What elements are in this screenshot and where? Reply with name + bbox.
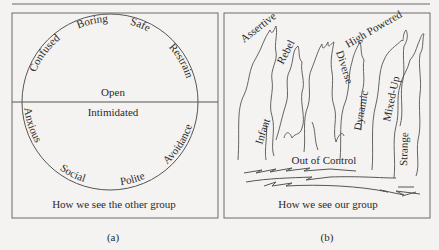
panel-b: Assertive Rebel Infant Diverse High Powe…	[224, 7, 430, 218]
flame-label-dynamic: Dynamic	[351, 89, 370, 131]
flame-label-high-powered: High Powered	[343, 7, 404, 49]
panel-b-sublabel: (b)	[321, 231, 334, 244]
flame-label-strange: Strange	[397, 132, 410, 166]
flame-inner-2	[312, 122, 318, 150]
center-label-open: Open	[101, 86, 125, 98]
flame-label-diverse: Diverse	[334, 49, 356, 85]
flame-label-assertive: Assertive	[238, 9, 278, 44]
panel-b-caption: How we see our group	[278, 198, 378, 210]
flame-label-infant: Infant	[252, 117, 272, 146]
arc-label-polite: Polite	[119, 169, 146, 187]
panel-a: Confused Boring Safe Restrain Open Intim…	[12, 12, 218, 218]
base-label-out-of-control: Out of Control	[292, 154, 357, 166]
panel-a-caption: How we see the other group	[52, 198, 176, 210]
arc-label-safe: Safe	[129, 15, 152, 34]
center-label-intimidated: Intimidated	[88, 106, 139, 118]
base-waves	[244, 168, 420, 196]
arc-label-restrain: Restrain	[167, 41, 196, 80]
arc-label-confused: Confused	[26, 31, 62, 73]
arc-label-social: Social	[58, 161, 87, 184]
flame-label-rebel: Rebel	[274, 38, 297, 66]
arc-label-boring: Boring	[75, 12, 109, 30]
figure-canvas: Confused Boring Safe Restrain Open Intim…	[0, 0, 439, 250]
panel-a-sublabel: (a)	[107, 231, 120, 244]
